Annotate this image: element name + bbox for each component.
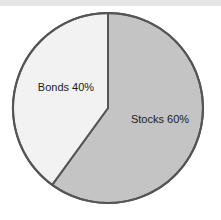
- pie-label-stocks: Stocks 60%: [131, 113, 189, 125]
- pie-chart: Bonds 40% Stocks 60%: [0, 0, 221, 220]
- pie-label-bonds: Bonds 40%: [38, 81, 94, 93]
